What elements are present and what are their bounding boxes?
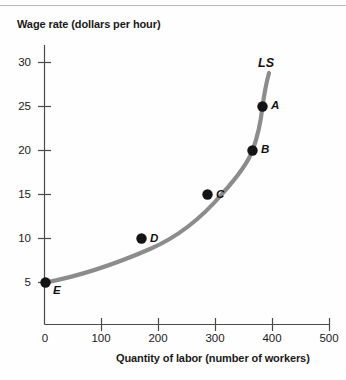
y-tick-label-15: 15 <box>5 188 31 200</box>
x-axis-title: Quantity of labor (number of workers) <box>116 352 310 364</box>
y-tick-label-10: 10 <box>5 232 31 244</box>
point-label-a: A <box>271 99 279 111</box>
y-tick-label-25: 25 <box>5 100 31 112</box>
y-tick-label-30: 30 <box>5 56 31 68</box>
labor-supply-curve <box>46 73 270 283</box>
data-point-b <box>247 145 257 155</box>
point-label-c: C <box>216 188 224 200</box>
x-tick-label-400: 400 <box>255 332 289 344</box>
point-label-d: D <box>150 232 158 244</box>
x-tick-label-300: 300 <box>198 332 232 344</box>
plot-area <box>0 0 346 380</box>
y-tick-label-20: 20 <box>5 144 31 156</box>
curve-label-ls: LS <box>258 56 274 70</box>
data-point-d <box>136 233 146 243</box>
y-tick-label-5: 5 <box>5 276 31 288</box>
chart-figure: Wage rate (dollars per hour) <box>0 0 346 380</box>
data-point-c <box>202 189 212 199</box>
x-tick-label-200: 200 <box>141 332 175 344</box>
data-point-a <box>257 101 267 111</box>
point-label-e: E <box>53 284 61 296</box>
point-label-b: B <box>261 143 269 155</box>
x-tick-label-500: 500 <box>312 332 346 344</box>
x-tick-label-100: 100 <box>84 332 118 344</box>
x-tick-label-0: 0 <box>28 332 62 344</box>
data-point-e <box>40 277 50 287</box>
